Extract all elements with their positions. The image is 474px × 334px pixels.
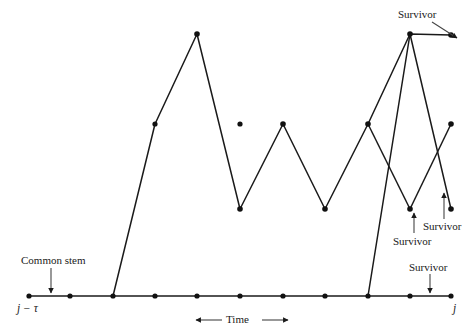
- trellis-node: [237, 293, 242, 298]
- trellis-node: [26, 293, 31, 298]
- trellis-node: [67, 293, 72, 298]
- trellis-node: [152, 121, 157, 126]
- trellis-node: [110, 293, 115, 298]
- trellis-node: [322, 206, 328, 212]
- axis-start-label: j − τ: [17, 303, 38, 315]
- trellis-node: [365, 121, 371, 127]
- survivor-path-a-line: [113, 34, 451, 296]
- trellis-node: [448, 206, 454, 212]
- trellis-node: [237, 206, 243, 212]
- survivor-path-a: [113, 34, 451, 296]
- trellis-node: [448, 121, 454, 127]
- trellis-node: [237, 121, 242, 126]
- trellis-node: [152, 293, 157, 298]
- trellis-node: [194, 31, 200, 37]
- survivor-path-d: [410, 124, 451, 209]
- survivor-top-label: Survivor: [398, 9, 437, 20]
- survivor-path-d-line: [410, 124, 451, 209]
- trellis-node: [280, 121, 286, 127]
- trellis-node: [322, 293, 327, 298]
- common-stem-label: Common stem: [21, 255, 85, 266]
- time-axis-label: Time: [226, 314, 249, 325]
- trellis-node: [407, 293, 412, 298]
- trellis-node: [194, 293, 199, 298]
- axis-end-label: j: [453, 303, 456, 315]
- survivor-path-c: [368, 34, 451, 296]
- trellis-diagram: Common stem Survivor Survivor Survivor S…: [0, 0, 474, 334]
- trellis-node: [448, 293, 453, 298]
- survivor-top-arrow: [432, 22, 457, 38]
- trellis-node: [365, 293, 370, 298]
- survivor-mid-left-label: Survivor: [393, 236, 432, 247]
- survivor-bottom-label: Survivor: [409, 262, 448, 273]
- trellis-node: [407, 206, 413, 212]
- trellis-svg-canvas: [0, 0, 474, 334]
- trellis-node: [407, 31, 413, 37]
- trellis-node: [280, 293, 285, 298]
- survivor-path-c-line: [368, 34, 451, 296]
- survivor-mid-right-label: Survivor: [423, 221, 462, 232]
